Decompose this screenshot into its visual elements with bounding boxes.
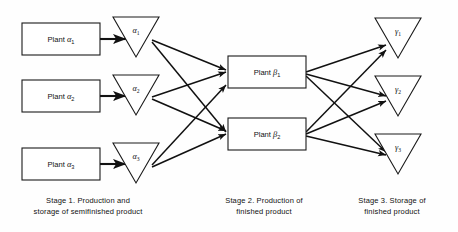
- storage-gamma-1: γ1: [375, 18, 421, 58]
- plant-alpha-label: Plant α1: [48, 35, 75, 45]
- edge-storage-alpha-3-plant-beta-1: [152, 85, 226, 165]
- edge-group-storage-alpha-to-plant-beta: [152, 40, 226, 167]
- plant-alpha-label: Plant α3: [48, 160, 75, 170]
- storage-gamma-triangle: [375, 76, 421, 116]
- edge-storage-alpha-3-plant-beta-2: [152, 134, 226, 167]
- edge-plant-beta-1-storage-gamma-3: [306, 76, 386, 152]
- edge-plant-beta-1-storage-gamma-2: [306, 74, 386, 96]
- storage-gamma-triangle: [375, 18, 421, 58]
- edge-plant-beta-2-storage-gamma-2: [306, 101, 386, 134]
- edge-plant-beta-1-storage-gamma-1: [306, 45, 386, 72]
- node-group-storage-alpha: α1α2α3: [113, 17, 159, 183]
- plant-alpha-label: Plant α2: [48, 92, 75, 102]
- edge-plant-beta-2-storage-gamma-3: [306, 136, 386, 155]
- plant-beta-label: Plant β2: [254, 130, 281, 140]
- plant-beta-2: Plant β2: [228, 118, 306, 150]
- node-group-plant-alpha: Plant α1Plant α2Plant α3: [22, 23, 100, 180]
- edge-group-plant-beta-to-storage-gamma: [306, 45, 386, 155]
- caption-stage-2: Stage 2. Production of finished product: [196, 196, 332, 217]
- plant-alpha-2: Plant α2: [22, 80, 100, 112]
- edge-storage-alpha-2-plant-beta-1: [152, 72, 226, 97]
- caption-stage-1: Stage 1. Production and storage of semif…: [4, 196, 172, 217]
- storage-gamma-2: γ2: [375, 76, 421, 116]
- plant-alpha-3: Plant α3: [22, 148, 100, 180]
- edge-storage-alpha-2-plant-beta-2: [152, 99, 226, 131]
- node-group-plant-beta: Plant β1Plant β2: [228, 56, 306, 150]
- caption-stage-3: Stage 3. Storage of finished product: [330, 196, 454, 217]
- storage-alpha-1: α1: [113, 17, 159, 57]
- plant-beta-1: Plant β1: [228, 56, 306, 88]
- storage-alpha-triangle: [113, 17, 159, 57]
- plant-beta-label: Plant β1: [254, 68, 281, 78]
- plant-alpha-1: Plant α1: [22, 23, 100, 55]
- process-flow-diagram: Plant α1Plant α2Plant α3 α1α2α3 Plant β1…: [0, 0, 458, 232]
- node-group-storage-gamma: γ1γ2γ3: [375, 18, 421, 174]
- edge-plant-beta-2-storage-gamma-1: [306, 50, 386, 132]
